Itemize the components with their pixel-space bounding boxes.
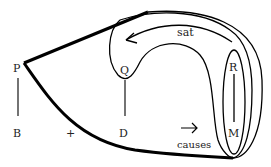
label-M: M <box>228 127 239 140</box>
label-B: B <box>13 127 21 140</box>
causal-diagram: P B + Q D sat R M causes <box>0 0 271 167</box>
label-Q: Q <box>120 64 129 77</box>
label-sat: sat <box>177 26 194 39</box>
label-causes: causes <box>177 139 211 150</box>
causes-arrow-icon <box>181 123 197 133</box>
label-P: P <box>13 62 21 75</box>
label-D: D <box>119 127 128 140</box>
label-R: R <box>229 61 238 74</box>
label-plus: + <box>66 127 75 140</box>
